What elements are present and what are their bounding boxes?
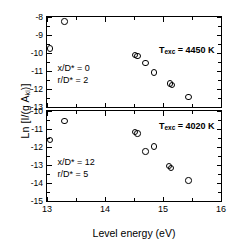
x-tick-bottom <box>163 111 164 116</box>
y-minor-tick-top <box>47 80 50 81</box>
y-tick-label-bottom: -14 <box>31 179 43 188</box>
temp-value: = 4020 K <box>175 121 214 131</box>
x-tick-bottom <box>163 197 164 202</box>
y-tick-label-top: -11 <box>31 67 43 76</box>
y-tick-bottom <box>217 165 222 166</box>
x-tick-top <box>47 103 48 108</box>
data-point <box>142 60 148 66</box>
x-minor-tick-top <box>192 104 193 107</box>
data-point <box>185 177 191 183</box>
y-tick-label-top: -10 <box>31 49 43 58</box>
y-tick-top <box>217 35 222 36</box>
annotation-radial-position: r/D* = 2 <box>57 74 89 86</box>
x-minor-tick-bottom <box>134 111 135 114</box>
y-minor-tick-top <box>47 26 50 27</box>
y-minor-tick-bottom <box>218 120 221 121</box>
y-minor-tick-bottom <box>47 120 50 121</box>
y-tick-label-bottom: -12 <box>31 143 43 152</box>
x-minor-tick-top <box>134 17 135 20</box>
data-point <box>134 53 140 59</box>
y-tick-bottom <box>217 147 222 148</box>
y-minor-tick-top <box>218 44 221 45</box>
x-minor-tick-bottom <box>134 198 135 201</box>
x-tick-label: 13 <box>42 205 52 214</box>
x-axis-title: Level energy (eV) <box>46 227 222 239</box>
y-minor-tick-bottom <box>218 156 221 157</box>
y-minor-tick-bottom <box>218 174 221 175</box>
plot-panel-bottom: -10-11-12-13-14-1513141516Texc = 4020 Kx… <box>46 110 222 202</box>
x-tick-top <box>163 17 164 22</box>
data-point <box>185 94 191 100</box>
x-minor-tick-bottom <box>192 111 193 114</box>
y-tick-bottom <box>217 183 222 184</box>
x-tick-top <box>105 103 106 108</box>
data-point <box>168 165 174 171</box>
x-tick-top <box>47 17 48 22</box>
y-minor-tick-bottom <box>218 192 221 193</box>
temp-subscript: exc <box>164 48 175 55</box>
temp-subscript: exc <box>164 124 175 131</box>
y-tick-label-top: -8 <box>35 13 43 22</box>
x-minor-tick-top <box>76 104 77 107</box>
data-point <box>151 143 157 149</box>
y-tick-label-top: -9 <box>35 31 43 40</box>
annotation-position-top: x/D* = 0r/D* = 2 <box>57 62 89 86</box>
y-tick-bottom <box>47 183 52 184</box>
x-minor-tick-bottom <box>192 198 193 201</box>
y-tick-bottom <box>47 129 52 130</box>
x-tick-top <box>221 17 222 22</box>
plot-area-top: -8-9-10-11-12-13Texc = 4450 Kx/D* = 0r/D… <box>47 17 221 107</box>
y-tick-bottom <box>217 129 222 130</box>
y-minor-tick-top <box>47 98 50 99</box>
x-tick-bottom <box>105 111 106 116</box>
x-tick-label: 16 <box>216 205 226 214</box>
y-minor-tick-bottom <box>47 174 50 175</box>
x-tick-top <box>163 103 164 108</box>
x-minor-tick-bottom <box>76 111 77 114</box>
x-minor-tick-top <box>192 17 193 20</box>
y-minor-tick-top <box>218 80 221 81</box>
y-tick-top <box>47 89 52 90</box>
data-point <box>169 82 175 88</box>
data-point <box>134 130 140 136</box>
y-tick-label-bottom: -13 <box>31 161 43 170</box>
y-tick-bottom <box>47 201 52 202</box>
temp-value: = 4450 K <box>175 45 214 55</box>
data-point <box>142 148 148 154</box>
x-tick-top <box>221 103 222 108</box>
x-minor-tick-top <box>134 104 135 107</box>
y-minor-tick-top <box>218 98 221 99</box>
y-tick-label-bottom: -11 <box>31 125 43 134</box>
annotation-excitation-temperature-bottom: Texc = 4020 K <box>159 120 215 133</box>
y-tick-bottom <box>47 147 52 148</box>
annotation-excitation-temperature-top: Texc = 4450 K <box>159 44 215 57</box>
plot-area-bottom: -10-11-12-13-14-1513141516Texc = 4020 Kx… <box>47 111 221 201</box>
x-tick-top <box>105 17 106 22</box>
annotation-axial-position: x/D* = 12 <box>57 156 94 168</box>
data-point <box>151 69 157 75</box>
y-minor-tick-top <box>47 62 50 63</box>
plot-panel-top: -8-9-10-11-12-13Texc = 4450 Kx/D* = 0r/D… <box>46 16 222 108</box>
data-point <box>61 118 67 124</box>
y-tick-top <box>47 107 52 108</box>
data-point <box>61 18 67 24</box>
data-point <box>47 45 53 51</box>
y-minor-tick-bottom <box>218 138 221 139</box>
x-tick-bottom <box>47 197 48 202</box>
y-tick-label-bottom: -10 <box>31 107 43 116</box>
y-minor-tick-top <box>218 26 221 27</box>
x-tick-label: 15 <box>158 205 168 214</box>
x-tick-bottom <box>221 197 222 202</box>
y-axis-title: Ln [I/(g Aki)] <box>19 31 31 191</box>
y-tick-top <box>217 71 222 72</box>
y-tick-top <box>217 53 222 54</box>
annotation-axial-position: x/D* = 0 <box>57 62 89 74</box>
y-axis-title-main: Ln [I/(g A <box>19 95 31 138</box>
annotation-radial-position: r/D* = 5 <box>57 168 94 180</box>
annotation-position-bottom: x/D* = 12r/D* = 5 <box>57 156 94 180</box>
y-minor-tick-bottom <box>47 192 50 193</box>
x-tick-bottom <box>221 111 222 116</box>
y-tick-top <box>47 53 52 54</box>
y-tick-label-top: -12 <box>31 85 43 94</box>
y-tick-bottom <box>47 165 52 166</box>
